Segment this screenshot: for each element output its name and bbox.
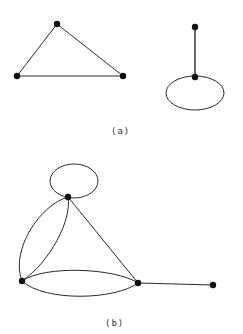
edge-b3-b4: [138, 283, 213, 285]
edge-b2-b3-lower: [22, 281, 138, 296]
edge-a1-a2: [17, 24, 57, 76]
caption-a: (a): [111, 126, 130, 136]
vertex-a4: [192, 24, 198, 30]
graph-a-pendant-loop: [166, 24, 224, 110]
vertex-b1: [65, 194, 71, 200]
graph-figure: [0, 0, 243, 334]
vertex-a3: [120, 73, 126, 79]
vertex-b3: [135, 280, 141, 286]
edge-b2-b3-upper: [22, 270, 138, 283]
loop-a5: [166, 76, 224, 110]
edge-b1-b2-outer: [19, 197, 68, 281]
caption-b: (b): [105, 318, 124, 328]
vertex-a5: [192, 74, 198, 80]
graph-b: [19, 164, 216, 296]
vertex-b2: [19, 278, 25, 284]
vertex-a1: [54, 21, 60, 27]
vertex-b4: [210, 282, 216, 288]
loop-b1: [50, 164, 98, 198]
graph-a-triangle: [14, 21, 126, 79]
edge-a1-a3: [57, 24, 123, 76]
vertex-a2: [14, 73, 20, 79]
edge-b1-b2-inner: [22, 197, 68, 281]
